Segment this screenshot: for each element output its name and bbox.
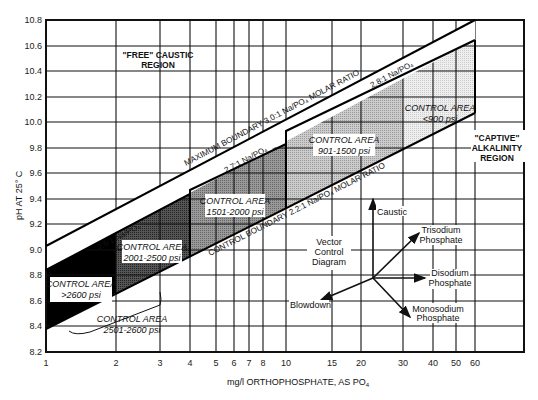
svg-text:8.4: 8.4 (29, 321, 42, 331)
trisodium-arrow (373, 233, 419, 278)
ca-2600-title: CONTROL AREA (46, 279, 117, 289)
svg-text:15: 15 (327, 358, 337, 368)
ca-1501-title: CONTROL AREA (200, 196, 271, 206)
caustic-label: Caustic (377, 207, 408, 217)
y-ticks: 10.810.610.4 10.210.09.8 9.69.49.2 9.08.… (24, 15, 42, 357)
ca-900-title: CONTROL AREA (405, 103, 476, 113)
x-axis-label: mg/l ORTHOPHOSPHATE, AS PO4 (227, 377, 370, 388)
svg-text:8.2: 8.2 (29, 347, 42, 357)
captive-label-2: ALKALINITY (472, 143, 523, 153)
ca-2600-range: >2600 psi (61, 290, 101, 300)
svg-text:10.0: 10.0 (24, 117, 42, 127)
blowdown-arrow (321, 278, 373, 300)
ca-2501-range: 2501-2600 psi (102, 325, 161, 335)
ca-901-title: CONTROL AREA (309, 135, 380, 145)
svg-text:10.8: 10.8 (24, 15, 42, 25)
svg-text:10.6: 10.6 (24, 41, 42, 51)
svg-text:8: 8 (260, 358, 265, 368)
free-caustic-label-2: REGION (141, 60, 175, 70)
ca-2501-title: CONTROL AREA (97, 314, 168, 324)
x-ticks: 123 456 7810 152030 405060 (43, 358, 480, 368)
svg-text:30: 30 (398, 358, 408, 368)
svg-text:60: 60 (470, 358, 480, 368)
svg-text:20: 20 (356, 358, 366, 368)
svg-text:8.6: 8.6 (29, 296, 42, 306)
svg-text:5: 5 (213, 358, 218, 368)
ca-2001-range: 2001-2500 psi (122, 253, 181, 263)
svg-text:6: 6 (231, 358, 236, 368)
svg-text:10.4: 10.4 (24, 66, 42, 76)
svg-text:9.0: 9.0 (29, 245, 42, 255)
vcd-label-2: Control (314, 247, 343, 257)
monosodium-arrow (373, 278, 410, 317)
svg-text:8.8: 8.8 (29, 270, 42, 280)
captive-label-1: "CAPTIVE" (475, 133, 520, 143)
monosodium-label-2: Phosphate (416, 313, 459, 323)
svg-text:7: 7 (246, 358, 251, 368)
svg-text:4: 4 (187, 358, 192, 368)
blowdown-label: Blowdown (290, 300, 331, 310)
svg-text:9.8: 9.8 (29, 143, 42, 153)
svg-text:9.4: 9.4 (29, 194, 42, 204)
trisodium-label-2: Phosphate (419, 235, 462, 245)
svg-text:9.2: 9.2 (29, 219, 42, 229)
vcd-label-1: Vector (316, 237, 342, 247)
svg-text:2: 2 (113, 358, 118, 368)
ca-2001-title: CONTROL AREA (117, 242, 188, 252)
disodium-label-1: Disodium (431, 268, 469, 278)
chart: 10.810.610.4 10.210.09.8 9.69.49.2 9.08.… (0, 0, 538, 400)
svg-text:10.2: 10.2 (24, 92, 42, 102)
y-axis-label: pH AT 25° C (14, 170, 24, 220)
free-caustic-label-1: "FREE" CAUSTIC (123, 50, 194, 60)
disodium-label-2: Phosphate (428, 278, 471, 288)
svg-text:10: 10 (281, 358, 291, 368)
vcd-label-3: Diagram (312, 257, 346, 267)
svg-text:50: 50 (451, 358, 461, 368)
svg-text:3: 3 (157, 358, 162, 368)
svg-text:9.6: 9.6 (29, 168, 42, 178)
ca-901-range: 901-1500 psi (318, 146, 371, 156)
svg-text:40: 40 (428, 358, 438, 368)
ca-900-range: <900 psi (423, 114, 458, 124)
ca-1501-range: 1501-2000 psi (206, 207, 264, 217)
captive-label-3: REGION (480, 153, 514, 163)
trisodium-label-1: Trisodium (421, 225, 460, 235)
svg-text:1: 1 (43, 358, 48, 368)
